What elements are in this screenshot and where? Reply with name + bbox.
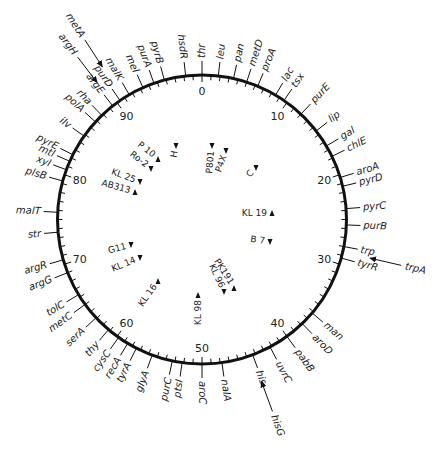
tick: [340, 201, 345, 202]
gene-tick: [343, 183, 357, 186]
tick: [97, 315, 101, 318]
gene-label-aroC: aroC: [197, 381, 208, 404]
arrow-label-trpA: trpA: [404, 260, 427, 276]
gene-tick: [86, 318, 96, 328]
tick: [59, 237, 64, 238]
gene-tick: [53, 165, 66, 170]
gene-tick: [180, 363, 182, 377]
hfr-arrow-icon: [222, 289, 227, 295]
gene-label-hsdR: hsdR: [176, 34, 190, 60]
gene-tick: [284, 89, 292, 101]
tick: [59, 201, 64, 202]
hfr-label: B 7: [250, 234, 266, 246]
gene-tick: [287, 336, 295, 347]
gene-tick: [316, 122, 327, 131]
gene-tick: [346, 225, 360, 226]
tick: [304, 121, 308, 124]
gene-tick: [258, 73, 263, 86]
gene-label-trp: trp: [360, 244, 376, 258]
minute-label: 20: [317, 174, 331, 187]
gene-tick: [120, 343, 127, 355]
hfr-arrow-icon: [268, 239, 273, 245]
gene-label-pyrC: pyrC: [362, 200, 387, 213]
minute-label: 10: [271, 110, 285, 123]
gene-tick: [247, 69, 251, 82]
gene-tick: [253, 355, 258, 368]
hfr-label: KL 19: [242, 208, 268, 218]
gene-tick: [270, 347, 277, 359]
gene-label-leu: leu: [214, 43, 227, 59]
gene-label-argR: argR: [23, 259, 49, 276]
hfr-KL-98: KL 98: [193, 292, 203, 325]
tick: [184, 358, 185, 363]
hfr-C: C: [244, 165, 258, 179]
gene-tick: [137, 75, 143, 88]
gene-tick: [184, 62, 186, 76]
gene-tick: [110, 337, 118, 348]
hfr-arrow-icon: [133, 189, 138, 195]
hfr-arrow-icon: [196, 292, 201, 298]
hfr-label: H: [169, 150, 180, 158]
gene-label-mel: mel: [124, 53, 142, 75]
hfr-strain-markers: HP801P4XCP 10Ro-2KL 25AB313KL 19B 7G11KL…: [100, 139, 274, 325]
tick: [97, 121, 101, 124]
hfr-KL-19: KL 19: [242, 208, 275, 218]
gene-tick: [161, 66, 165, 80]
gene-label-thr: thr: [196, 43, 207, 58]
hfr-arrow-icon: [138, 179, 143, 185]
hfr-label: KL 14: [110, 255, 137, 274]
gene-tick: [276, 83, 283, 95]
gene-tick: [344, 247, 358, 250]
gene-tick: [341, 258, 354, 262]
gene-label-ptsI: ptsI: [171, 379, 185, 400]
gene-tick: [169, 361, 172, 375]
gene-tick: [85, 112, 95, 121]
gene-tick: [218, 62, 220, 76]
tick: [219, 76, 220, 81]
gene-label-str: str: [27, 228, 42, 240]
gene-label-purE: purE: [307, 80, 332, 106]
gene-tick: [302, 324, 312, 334]
gene-tick: [55, 273, 68, 278]
gene-tick: [147, 355, 152, 368]
hfr-arrow-icon: [210, 143, 215, 149]
tick: [117, 103, 121, 109]
hfr-KL-16: KL 16: [136, 278, 160, 308]
gene-tick: [130, 348, 136, 360]
gene-tick: [60, 148, 73, 154]
gene-tick: [74, 304, 85, 312]
hfr-B-7: B 7: [250, 234, 273, 246]
minute-label: 40: [271, 317, 285, 330]
tick: [117, 331, 121, 337]
gene-tick: [99, 330, 108, 341]
minute-label: 0: [199, 85, 206, 98]
gene-label-malT: malT: [16, 204, 42, 216]
gene-label-purB: purB: [362, 220, 387, 232]
hfr-arrow-icon: [174, 143, 179, 149]
minute-label: 50: [195, 342, 209, 355]
minute-label: 80: [73, 174, 87, 187]
gene-tick: [57, 156, 70, 162]
gene-label-pabB: pabB: [292, 346, 317, 374]
hfr-label: KL 98: [193, 300, 203, 326]
gene-tick: [50, 260, 63, 264]
tick: [219, 358, 220, 363]
gene-tick: [326, 139, 338, 146]
gene-label-argG: argG: [27, 273, 54, 292]
gene-tick: [44, 212, 58, 213]
gene-tick: [301, 104, 311, 114]
hfr-arrow-icon: [156, 278, 161, 284]
arrow-metA: [85, 40, 102, 67]
gene-label-ilv: ilv: [58, 115, 75, 131]
gene-label-plsB: plsB: [24, 165, 48, 182]
hfr-arrow-icon: [149, 166, 154, 172]
gene-tick: [332, 150, 345, 156]
gene-label-uvrC: uvrC: [274, 359, 295, 385]
hfr-arrow-icon: [270, 210, 275, 216]
gene-label-glyA: glyA: [133, 369, 151, 393]
gene-label-purC: purC: [158, 376, 174, 403]
tick: [297, 321, 300, 325]
circular-genetic-map: 0102030405060708090 thrleupanmetDproAlac…: [0, 0, 447, 467]
gene-label-lip: lip: [326, 108, 342, 124]
gene-label-serA: serA: [63, 325, 87, 348]
